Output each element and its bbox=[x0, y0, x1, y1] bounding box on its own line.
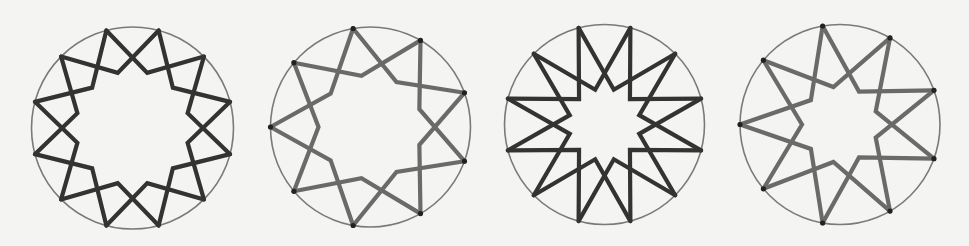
vertex-dot bbox=[418, 211, 423, 216]
figure-9-fold-narrow-elbow bbox=[737, 23, 940, 225]
figure-12-fold-wide-elbow bbox=[32, 27, 234, 229]
vertex-dot bbox=[737, 122, 742, 127]
vertex-dot bbox=[268, 124, 273, 129]
star-edge bbox=[763, 162, 890, 211]
star-edge bbox=[508, 150, 579, 221]
vertex-dot bbox=[462, 90, 467, 95]
star-edge bbox=[630, 150, 701, 221]
vertex-dot bbox=[887, 209, 892, 214]
vertex-dot bbox=[887, 35, 892, 40]
vertex-dot bbox=[291, 189, 296, 194]
vertex-dot bbox=[418, 38, 423, 43]
star-edge bbox=[508, 28, 579, 99]
vertex-dot bbox=[291, 60, 296, 65]
star-edge bbox=[353, 29, 464, 93]
star-edge bbox=[630, 28, 701, 99]
vertex-dot bbox=[820, 220, 825, 225]
vertex-dot bbox=[931, 88, 936, 93]
vertex-dot bbox=[351, 26, 356, 31]
star-edge bbox=[353, 161, 464, 225]
vertex-dot bbox=[820, 23, 825, 28]
figure-12-fold-narrow-elbow bbox=[505, 25, 705, 225]
star-edge bbox=[763, 38, 890, 87]
figure-9-fold-wide-elbow bbox=[268, 26, 471, 228]
circumscribed-circle bbox=[271, 27, 471, 227]
star-edge bbox=[294, 63, 319, 192]
vertex-dot bbox=[931, 156, 936, 161]
vertex-dot bbox=[462, 159, 467, 164]
vertex-dot bbox=[761, 186, 766, 191]
star-edge bbox=[763, 60, 802, 189]
star-pattern-figures bbox=[0, 0, 969, 246]
vertex-dot bbox=[761, 58, 766, 63]
vertex-dot bbox=[351, 223, 356, 228]
